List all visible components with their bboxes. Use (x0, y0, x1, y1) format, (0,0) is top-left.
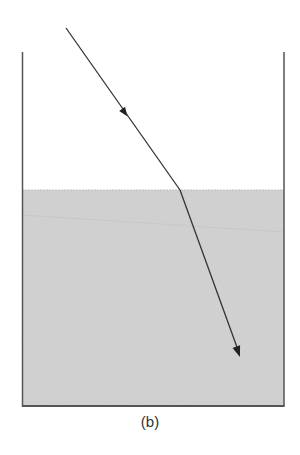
refraction-diagram (0, 0, 300, 455)
water-body (22, 190, 284, 406)
figure-caption: (b) (0, 413, 300, 430)
